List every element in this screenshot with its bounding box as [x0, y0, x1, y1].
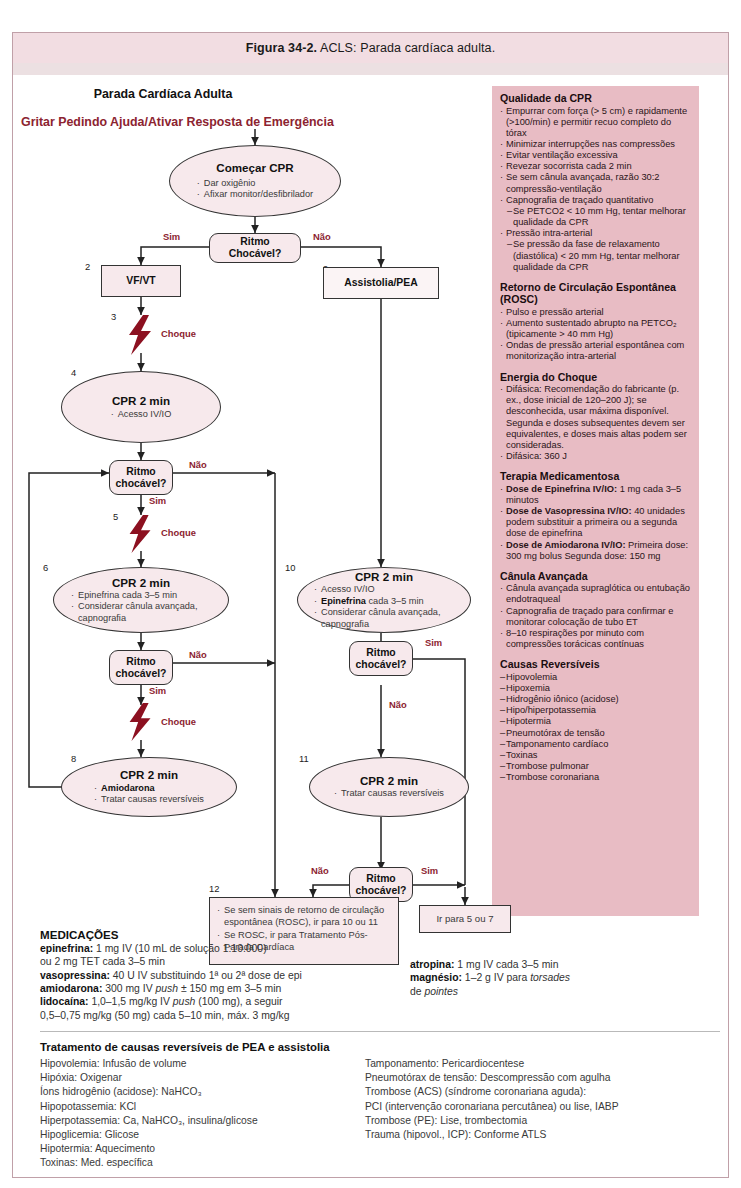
- bullet-dot: ·: [314, 584, 321, 596]
- step-number-3: 3: [111, 311, 116, 322]
- reversible-cause-line: Toxinas: Med. específica: [40, 1156, 365, 1170]
- reversible-cause-line: Hiperpotassemia: Ca, NaHCO₃, insulina/gl…: [40, 1114, 365, 1128]
- sidebar-section-gap: [500, 650, 691, 658]
- edge-label-choque-5: Choque: [161, 527, 196, 538]
- node-cpr-2min-10-item-3: Considerar cânula avançada, capnografia: [321, 607, 454, 630]
- medication-line: magnésio: 1–2 g IV para torsades: [410, 971, 710, 984]
- sidebar-list-item: –Hipovolemia: [500, 672, 691, 683]
- sidebar-list-item: ·Aumento sustentado abrupto na PETCO₂ (t…: [500, 318, 691, 340]
- sidebar-list-item-text: Hipoxemia: [506, 683, 691, 694]
- figure-caption-band: Figura 34-2. ACLS: Parada cardíaca adult…: [13, 33, 728, 63]
- bullet-dot: ·: [197, 189, 204, 201]
- node-cpr-2min-8[interactable]: CPR 2 min ·Amiodarona ·Tratar causas rev…: [61, 757, 237, 817]
- decision-4-line-2: chocável?: [356, 659, 407, 671]
- node-assistolia-pea[interactable]: Assistolia/PEA: [323, 267, 439, 299]
- decision-ritmo-chocavel-4[interactable]: Ritmo chocável?: [349, 641, 413, 676]
- decision-ritmo-chocavel-3[interactable]: Ritmo chocável?: [109, 650, 173, 685]
- edge-label-choque-7: Choque: [161, 716, 196, 727]
- decision-ritmo-chocavel-2[interactable]: Ritmo chocável?: [109, 460, 173, 495]
- node-comecar-cpr-item-2: Afixar monitor/desfibrilador: [204, 189, 313, 201]
- sidebar-list-item: ·Difásica: Recomendação do fabricante (p…: [500, 384, 691, 451]
- sidebar-list-item: ·Capnografia de traçado quantitativo: [500, 195, 691, 206]
- shock-bolt-icon: [125, 703, 157, 741]
- edge-label-yes-2: Sim: [149, 495, 166, 506]
- node-cpr-2min-11[interactable]: CPR 2 min ·Tratar causas reversíveis: [309, 757, 469, 817]
- medication-name: lidocaína:: [40, 996, 89, 1007]
- sidebar-list-item-text: Pneumotórax de tensão: [506, 728, 691, 739]
- medication-line: 0,5–0,75 mg/kg (50 mg) cada 5–10 min, má…: [40, 1009, 410, 1022]
- node-cpr-2min-10[interactable]: CPR 2 min ·Acesso IV/IO ·Epinefrina cada…: [297, 567, 471, 633]
- reversible-cause-line: Tamponamento: Pericardiocentese: [365, 1057, 720, 1071]
- decision-ritmo-chocavel-1[interactable]: Ritmo Chocável?: [209, 233, 301, 263]
- node-cpr-2min-8-title: CPR 2 min: [120, 768, 178, 781]
- sidebar-list-item: ·Cânula avançada supraglótica ou entubaç…: [500, 583, 691, 605]
- edge-label-yes-4: Sim: [425, 637, 442, 648]
- bullet-dot: ·: [94, 794, 101, 806]
- flowchart-title: Parada Cardíaca Adulta: [13, 87, 313, 101]
- bullet-dot: ·: [217, 904, 224, 929]
- shock-bolt-icon: [125, 315, 157, 355]
- edge-label-choque-3: Choque: [161, 328, 196, 339]
- medication-name: atropina:: [410, 959, 454, 970]
- reversible-causes-right-column: Tamponamento: PericardiocentesePneumotór…: [365, 1057, 720, 1171]
- sidebar-list-item-text: Tamponamento cardíaco: [506, 739, 691, 750]
- node-cpr-2min-4[interactable]: CPR 2 min ·Acesso IV/IO: [61, 371, 221, 443]
- bullet-dot: ·: [314, 607, 321, 630]
- sidebar-list-item: –Hipoxemia: [500, 683, 691, 694]
- medication-line: de pointes: [410, 985, 710, 998]
- sidebar-list-item: ·Ondas de pressão arterial espontânea co…: [500, 340, 691, 362]
- bullet-dot: ·: [71, 590, 78, 602]
- sidebar-list-item: ·Minimizar interrupções nas compressões: [500, 139, 691, 150]
- node-cpr-2min-10-item-2: cada 3–5 min: [366, 596, 424, 606]
- medication-line: ou 2 mg TET cada 3–5 min: [40, 955, 410, 968]
- decision-1-line-2: Chocável?: [229, 248, 282, 260]
- sidebar-list-item-text: Se pressão da fase de relaxamento (diast…: [513, 239, 691, 272]
- reversible-causes-heading: Tratamento de causas reversíveis de PEA …: [40, 1041, 720, 1053]
- bullet-dot: ·: [111, 409, 118, 421]
- node-comecar-cpr-title: Começar CPR: [216, 161, 293, 174]
- node-cpr-2min-6[interactable]: CPR 2 min ·Epinefrina cada 3–5 min ·Cons…: [53, 567, 229, 633]
- sidebar-list-item-text: Trombose coronariana: [506, 772, 691, 783]
- step-number-6: 6: [43, 562, 48, 573]
- figure-caption: Figura 34-2. ACLS: Parada cardíaca adult…: [246, 41, 496, 55]
- bullet-dot: ·: [94, 783, 101, 795]
- sidebar-list-item: –Trombose pulmonar: [500, 761, 691, 772]
- sidebar-list-item: –Hipotermia: [500, 716, 691, 727]
- sidebar-list-item: –Hipo/hiperpotassemia: [500, 705, 691, 716]
- medication-emphasis: push: [156, 983, 179, 994]
- sidebar-section-heading: Causas Reversíveis: [500, 658, 691, 671]
- medications-heading: MEDICAÇÕES: [40, 928, 720, 941]
- figure-caption-text: ACLS: Parada cardíaca adulta.: [317, 41, 495, 55]
- decision-2-line-1: Ritmo: [126, 466, 155, 478]
- reversible-cause-line: Pneumotórax de tensão: Descompressão com…: [365, 1071, 720, 1085]
- medication-name: epinefrina:: [40, 943, 93, 954]
- step-number-11: 11: [299, 753, 309, 764]
- figure-page: Figura 34-2. ACLS: Parada cardíaca adult…: [12, 32, 729, 1178]
- flowchart-subtitle-call-for-help: Gritar Pedindo Ajuda/Ativar Resposta de …: [21, 115, 334, 129]
- node-cpr-2min-6-title: CPR 2 min: [112, 576, 170, 589]
- sidebar-list-item: ·Dose de Epinefrina IV/IO: 1 mg cada 3–5…: [500, 484, 691, 506]
- sidebar-list-item-text: Dose de Epinefrina IV/IO: 1 mg cada 3–5 …: [506, 484, 691, 506]
- node-comecar-cpr[interactable]: Começar CPR ·Dar oxigênio ·Afixar monito…: [169, 145, 341, 217]
- step-number-10: 10: [285, 562, 295, 573]
- sidebar-list-item: ·8–10 respirações por minuto com compres…: [500, 628, 691, 650]
- figure-caption-number: Figura 34-2.: [246, 41, 317, 55]
- sidebar-list-item: –Se PETCO2 < 10 mm Hg, tentar melhorar q…: [500, 206, 691, 228]
- sidebar-section-gap: [500, 273, 691, 281]
- bullet-dot: ·: [334, 788, 341, 800]
- medication-line: amiodarona: 300 mg IV push ± 150 mg em 3…: [40, 982, 410, 995]
- sidebar-list-item-text: Pulso e pressão arterial: [506, 307, 691, 318]
- medications-right-column: atropina: 1 mg IV cada 3–5 minmagnésio: …: [410, 942, 710, 1022]
- edge-label-no-4: Não: [389, 699, 407, 710]
- medication-name: amiodarona:: [40, 983, 102, 994]
- bullet-dot: ·: [71, 601, 78, 624]
- sidebar-list-item-text: Difásica: Recomendação do fabricante (p.…: [506, 384, 691, 451]
- node-cpr-2min-4-item-1: Acesso IV/IO: [118, 409, 172, 421]
- sidebar-list-item: ·Empurrar com força (> 5 cm) e rapidamen…: [500, 106, 691, 139]
- node-cpr-2min-11-item-1: Tratar causas reversíveis: [341, 788, 444, 800]
- decision-5-line-1: Ritmo: [366, 873, 395, 885]
- node-vf-vt[interactable]: VF/VT: [101, 265, 181, 297]
- step-number-12: 12: [209, 883, 219, 894]
- sidebar-list-item: ·Capnografia de traçado para confirmar e…: [500, 606, 691, 628]
- decision-5-line-2: chocável?: [356, 885, 407, 897]
